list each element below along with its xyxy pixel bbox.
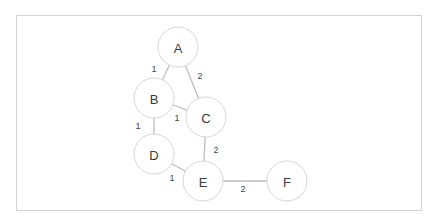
node-label: B — [150, 92, 159, 107]
graph-canvas: 1211212 ABCDEF — [0, 0, 439, 224]
edge-weight-b-c: 1 — [174, 113, 179, 123]
node-label: D — [149, 148, 158, 163]
node-label: E — [199, 175, 208, 190]
node-d: D — [134, 134, 174, 174]
node-label: A — [174, 41, 183, 56]
node-a: A — [158, 27, 198, 67]
edge-weight-d-e: 1 — [169, 173, 174, 183]
edge-weight-e-f: 2 — [240, 184, 245, 194]
node-label: F — [283, 175, 291, 190]
edge-weight-b-d: 1 — [135, 121, 140, 131]
edge-weight-a-b: 1 — [151, 64, 156, 74]
edge-weight-a-c: 2 — [197, 71, 202, 81]
edge-weight-c-e: 2 — [213, 145, 218, 155]
node-label: C — [201, 111, 210, 126]
node-b: B — [134, 78, 174, 118]
nodes-layer: ABCDEF — [134, 27, 307, 201]
node-c: C — [186, 97, 226, 137]
node-f: F — [267, 161, 307, 201]
node-e: E — [183, 161, 223, 201]
